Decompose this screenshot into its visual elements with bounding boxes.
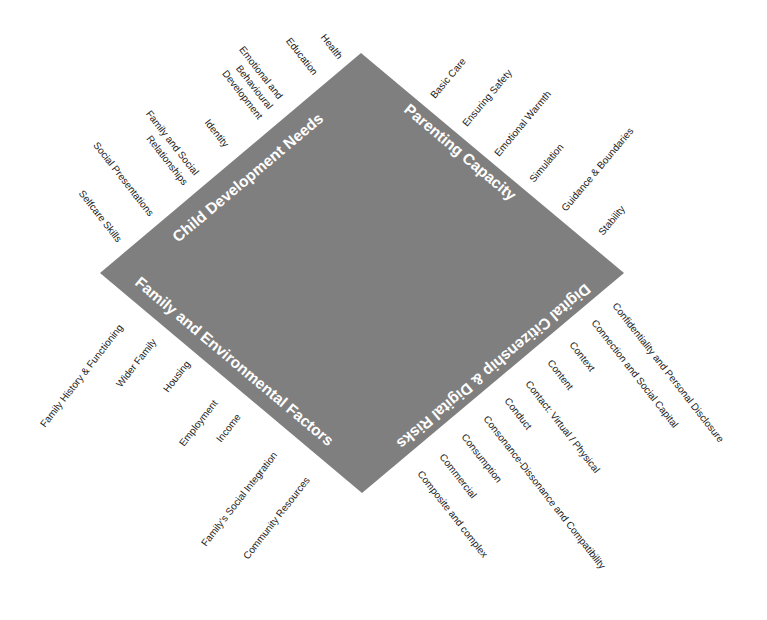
label-context: Context <box>567 339 597 373</box>
label-income: Income <box>214 411 243 444</box>
label-health: Health <box>319 32 345 62</box>
label-emotional-warmth: Emotional Warmth <box>492 88 553 158</box>
label-identity: Identity <box>203 117 232 149</box>
label-education: Education <box>284 35 320 77</box>
label-guidance-boundaries: Guidance & Boundaries <box>559 125 635 213</box>
central-diamond <box>100 53 624 493</box>
label-ensuring-safety: Ensuring Safety <box>460 67 514 128</box>
framework-diagram: Child Development Needs Parenting Capaci… <box>0 0 767 620</box>
label-simulation: Simulation <box>527 141 565 184</box>
label-stability: Stability <box>596 203 627 237</box>
label-content: Content <box>545 357 575 392</box>
label-basic-care: Basic Care <box>428 55 468 100</box>
label-housing: Housing <box>161 359 192 395</box>
label-employment: Employment <box>177 397 220 448</box>
label-consonance-dissonance: Consonance-Dissonance and Compatibility <box>481 413 607 570</box>
label-selfcare-skills: Selfcare Skills <box>77 188 124 244</box>
label-conduct: Conduct <box>502 395 534 431</box>
label-contact: Contact: Virtual / Physical <box>523 378 602 474</box>
label-composite-complex: Composite and complex <box>415 468 490 559</box>
label-family-history-functioning: Family History & Functioning <box>38 322 125 429</box>
label-wider-family: Wider Family <box>114 336 159 389</box>
